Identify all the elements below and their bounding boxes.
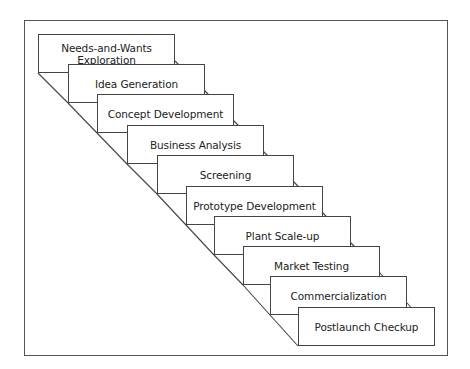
- step-label: Screening: [200, 169, 251, 181]
- step-label: Business Analysis: [150, 139, 241, 151]
- step-connector-line: [186, 225, 214, 255]
- step-label: Idea Generation: [95, 78, 178, 90]
- step-label: Concept Development: [108, 108, 224, 120]
- step-connector-line: [157, 194, 186, 225]
- step-connector-line: [68, 103, 97, 133]
- step-connector-line: [214, 255, 243, 285]
- step-label: Needs-and-Wants Exploration: [59, 42, 154, 66]
- step-connector-line: [270, 315, 298, 346]
- step-label: Commercialization: [290, 290, 386, 302]
- step-label: Market Testing: [274, 260, 349, 272]
- step-connector-line: [243, 285, 270, 315]
- step-connector-line: [97, 133, 127, 164]
- step-box: Postlaunch Checkup: [298, 307, 435, 346]
- step-connector-line: [38, 73, 68, 103]
- step-label: Postlaunch Checkup: [315, 321, 419, 333]
- step-connector-line: [127, 164, 157, 194]
- step-label: Plant Scale-up: [246, 230, 320, 242]
- step-label: Prototype Development: [193, 200, 316, 212]
